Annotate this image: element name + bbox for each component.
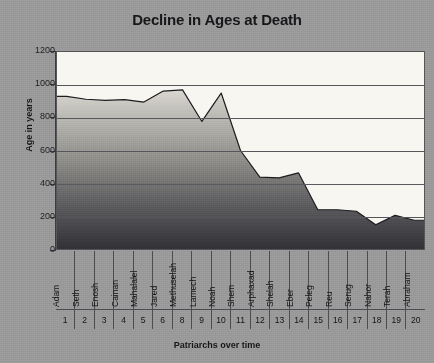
category-label: Lamech xyxy=(189,277,198,307)
category-label: Mahalalel xyxy=(130,271,139,307)
category-axis-table: Adam1Seth2Enosh3Cainan4Mahalalel5Jared6M… xyxy=(56,251,425,329)
y-tick-label-800: 800 xyxy=(15,112,55,121)
category-number: 18 xyxy=(368,309,386,329)
category-number: 1 xyxy=(56,309,74,329)
category-number: 14 xyxy=(290,309,308,329)
gridline-800 xyxy=(57,118,424,119)
category-label: Serug xyxy=(344,285,353,308)
category-label: Arphaxad xyxy=(247,271,256,307)
category-column: Peleg15 xyxy=(309,251,328,329)
category-number: 10 xyxy=(212,309,230,329)
y-tick-label-600: 600 xyxy=(15,146,55,155)
gridline-400 xyxy=(57,184,424,185)
category-number: 8 xyxy=(173,309,191,329)
category-label: Reu xyxy=(325,292,334,308)
category-label: Terah xyxy=(383,286,392,307)
category-number: 12 xyxy=(251,309,269,329)
category-number: 11 xyxy=(231,309,249,329)
gridline-200 xyxy=(57,217,424,218)
y-tick-label-400: 400 xyxy=(15,179,55,188)
category-number: 20 xyxy=(406,309,424,329)
category-label: Peleg xyxy=(305,286,314,308)
x-axis-title: Patriarchs over time xyxy=(0,340,434,350)
category-column: Abraham20 xyxy=(406,251,424,329)
gridline-1000 xyxy=(57,85,424,86)
category-number: 16 xyxy=(329,309,347,329)
category-number: 13 xyxy=(270,309,288,329)
category-label: Eber xyxy=(286,289,295,307)
gridline-600 xyxy=(57,151,424,152)
y-tick-label-0: 0 xyxy=(15,245,55,254)
category-label: Jared xyxy=(150,286,159,307)
category-label: Enosh xyxy=(91,283,100,307)
y-tick-label-1200: 1200 xyxy=(15,46,55,55)
category-label: Seth xyxy=(72,290,81,308)
category-label: Shelah xyxy=(266,281,275,307)
category-label-cell: Abraham xyxy=(406,251,424,309)
plot-area xyxy=(56,51,425,250)
category-number: 9 xyxy=(192,309,210,329)
category-label: Nahor xyxy=(364,284,373,307)
category-number: 4 xyxy=(114,309,132,329)
category-number: 5 xyxy=(134,309,152,329)
y-axis-title: Age in years xyxy=(24,80,34,170)
category-label: Noah xyxy=(208,287,217,307)
category-number: 6 xyxy=(153,309,171,329)
category-label: Methuselah xyxy=(169,263,178,307)
category-number: 3 xyxy=(95,309,113,329)
category-label: Shem xyxy=(227,285,236,307)
category-number: 15 xyxy=(309,309,327,329)
y-tick-label-1000: 1000 xyxy=(15,79,55,88)
category-label: Cainan xyxy=(111,280,120,307)
y-tick-label-200: 200 xyxy=(15,212,55,221)
chart-title: Decline in Ages at Death xyxy=(0,11,434,28)
category-label: Adam xyxy=(52,285,61,307)
category-label: Abraham xyxy=(403,273,412,308)
category-number: 2 xyxy=(75,309,93,329)
category-number: 17 xyxy=(348,309,366,329)
category-number: 19 xyxy=(387,309,405,329)
